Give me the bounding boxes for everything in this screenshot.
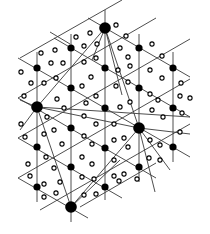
hollow-site-circle [148,138,152,142]
lattice-line [80,163,156,207]
hollow-site-circle [112,122,116,126]
lattice-node [33,143,40,150]
hollow-site-circle [80,155,84,159]
hollow-site-circle [114,23,118,27]
hollow-site-circle [112,158,116,162]
hollow-site-circle [147,156,151,160]
hollow-site-circle [126,55,130,59]
hollow-site-circle [178,94,182,98]
hollow-site-circle [94,122,98,126]
hollow-site-circle [117,179,121,183]
hollow-site-circle [148,68,152,72]
superlattice-line [71,160,120,207]
lattice-node [33,64,40,71]
hollow-site-circle [128,64,132,68]
hollow-site-circle [160,76,164,80]
hollow-site-circle [135,177,139,181]
hollow-site-circle [19,122,23,126]
lattice-node [135,163,142,170]
hollow-site-circle [58,180,62,184]
lattice-node [33,183,40,190]
lattice-line [18,18,156,98]
lattice-line [50,32,70,44]
lattice-node [101,104,108,111]
hollow-site-circle [28,174,32,178]
hollow-site-circle [44,155,48,159]
superlattice-line [105,28,122,95]
hollow-site-circle [61,61,65,65]
hollow-site-circle [82,193,86,197]
hollow-site-circle [22,94,26,98]
lattice-line [18,39,190,138]
hollow-site-circle [161,115,165,119]
hollow-site-circle [118,105,122,109]
hollow-site-circle [94,56,98,60]
hollow-site-circle [26,162,30,166]
hollow-site-circle [62,106,66,110]
hollow-site-circle [84,101,88,105]
hollow-site-circle [42,81,46,85]
hollow-site-circle [112,174,116,178]
lattice-node [101,64,108,71]
hollow-site-circle [90,142,94,146]
hollow-site-circle [60,142,64,146]
hollow-site-circle [23,135,27,139]
hollow-site-circle [52,128,56,132]
hollow-site-circle [158,158,162,162]
hollow-site-circle [126,80,130,84]
lattice-line [18,79,190,178]
hollow-site-circle [178,130,182,134]
hollow-site-circle [54,76,58,80]
hollow-site-circle [122,172,126,176]
hollow-site-circle [148,92,152,96]
hollow-site-circle [160,54,164,58]
hollow-site-circle [53,48,57,52]
superlattice-node [65,201,77,213]
lattice-line [18,178,88,218]
hollow-site-circle [29,81,33,85]
hollow-site-circle [42,195,46,199]
hollow-site-circle [19,70,23,74]
hollow-site-circle [82,44,86,48]
hollow-site-circle [82,114,86,118]
hollow-site-circle [94,192,98,196]
lattice-node [169,104,176,111]
lattice-node [101,183,108,190]
hollow-site-circle [80,84,84,88]
hollow-site-circle [42,182,46,186]
hollow-site-circle [42,132,46,136]
hollow-site-circle [150,108,154,112]
superlattice-line [139,128,155,192]
superlattice-node [99,22,111,34]
hollow-site-circle [150,42,154,46]
hollow-site-circle [94,94,98,98]
superlattice-node [31,101,43,113]
hollow-site-circle [92,177,96,181]
lattice-node [67,124,74,131]
lattice-node [101,144,108,151]
hollow-site-circle [90,162,94,166]
hollow-site-circle [122,136,126,140]
hollow-site-circle [179,81,183,85]
lattice-node [67,84,74,91]
lattice-node [67,44,74,51]
hollow-site-circle [74,35,78,39]
hollow-site-circle [114,84,118,88]
hollow-site-circle [39,51,43,55]
triangular-lattice-diagram [0,0,210,234]
hollow-site-circle [89,75,93,79]
hollow-site-circle [54,191,58,195]
hollow-site-circle [82,60,86,64]
hollow-site-circle [118,46,122,50]
hollow-site-circle [112,138,116,142]
lattice-node [169,64,176,71]
hollow-site-circle [158,143,162,147]
lattice-node [135,44,142,51]
hollow-site-circle [80,175,84,179]
superlattice-node [133,122,145,134]
hollow-site-circle [82,134,86,138]
hollow-site-circle [188,96,192,100]
hollow-site-circle [116,68,120,72]
hollow-site-circle [49,61,53,65]
hollow-site-circle [126,145,130,149]
